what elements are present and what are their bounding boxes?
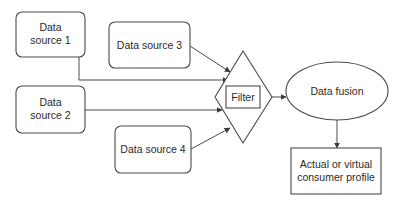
edge-ds4-filter — [191, 128, 230, 149]
node-label-line2: source 1 — [30, 34, 70, 46]
node-label: Data source 3 — [117, 39, 183, 51]
node-label-line1: Data — [39, 96, 61, 108]
node-label: Filter — [231, 91, 255, 103]
node-label-line2: source 2 — [30, 109, 70, 121]
node-label-line1: Actual or virtual — [300, 158, 372, 170]
edge-ds3-filter — [190, 46, 230, 72]
node-filter: Filter — [215, 51, 272, 143]
node-data-source-1: Data source 1 — [16, 12, 85, 57]
node-label: Data source 4 — [120, 143, 186, 155]
node-label-line1: Data — [39, 21, 61, 33]
node-label: Data fusion — [310, 85, 363, 97]
node-data-source-3: Data source 3 — [109, 22, 190, 68]
node-data-source-2: Data source 2 — [16, 86, 85, 133]
node-data-source-4: Data source 4 — [115, 126, 191, 173]
node-consumer-profile: Actual or virtual consumer profile — [291, 148, 381, 194]
node-data-fusion: Data fusion — [286, 62, 388, 120]
node-label-line2: consumer profile — [297, 171, 375, 183]
diagram-canvas: Data source 1 Data source 2 Data source … — [0, 0, 401, 205]
